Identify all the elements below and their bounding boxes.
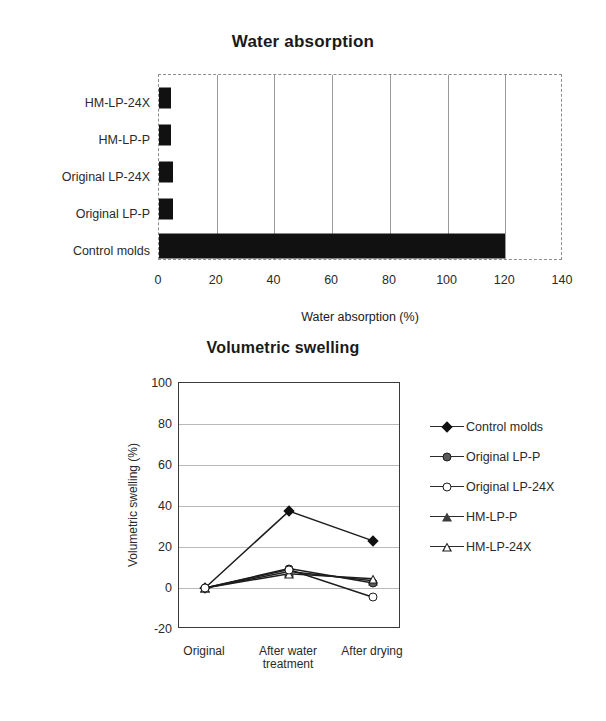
chart2-ytick--20: -20 [154,623,172,636]
chart2-ytick-60: 60 [158,459,172,472]
chart2-ytick-40: 40 [158,500,172,513]
chart1-plot-area [158,74,562,260]
legend-label: HM-LP-P [466,510,517,524]
legend-item-original-lp-24x: Original LP-24X [430,472,554,502]
chart1-bar-original-lp-24x [159,161,173,182]
chart2-legend: Control molds Original LP-P Original LP-… [430,412,554,562]
chart1-xtick-80: 80 [382,274,396,287]
legend-marker-diamond-filled-icon [430,420,464,434]
chart1-bar-hm-lp-p [159,124,171,145]
chart1-gridline-60 [332,75,333,259]
legend-label: Original LP-24X [466,480,554,494]
chart2-ytick-100: 100 [151,377,172,390]
legend-item-hm-lp-p: HM-LP-P [430,502,554,532]
chart2-y-axis-label: Volumetric swelling (%) [126,443,140,567]
chart1-x-axis-label: Water absorption (%) [301,311,419,324]
chart1-category-label-original-lp-24x: Original LP-24X [62,171,150,184]
chart1-gridline-20 [217,75,218,259]
chart1-title: Water absorption [232,33,374,50]
chart1-gridline-80 [390,75,391,259]
legend-label: Original LP-P [466,450,540,464]
legend-item-control-molds: Control molds [430,412,554,442]
chart2-ytick-20: 20 [158,541,172,554]
chart1-xtick-0: 0 [155,274,162,287]
legend-marker-triangle-filled-icon [430,510,464,524]
chart1-category-label-original-lp-p: Original LP-P [76,208,150,221]
chart1-gridline-100 [448,75,449,259]
chart1-bar-hm-lp-24x [159,87,171,108]
chart1-xtick-60: 60 [324,274,338,287]
legend-marker-circle-open-icon [430,480,464,494]
chart1-xtick-40: 40 [266,274,280,287]
chart1-category-label-control-molds: Control molds [73,245,150,258]
chart1-category-label-hm-lp-p: HM-LP-P [99,134,150,147]
legend-marker-circle-filled-icon [430,450,464,464]
chart1-xtick-100: 100 [436,274,457,287]
chart1-gridline-120 [505,75,506,259]
chart1-category-label-hm-lp-24x: HM-LP-24X [85,97,150,110]
chart2-ytick-0: 0 [165,582,172,595]
chart2-title: Volumetric swelling [207,340,360,356]
chart2-xtick-after-drying: After drying [341,645,402,658]
legend-item-original-lp-p: Original LP-P [430,442,554,472]
chart2-ytick-80: 80 [158,418,172,431]
legend-item-hm-lp-24x: HM-LP-24X [430,532,554,562]
chart1-bar-original-lp-p [159,199,173,220]
chart1-xtick-120: 120 [494,274,515,287]
chart1-bar-control-molds [159,234,505,259]
page-caption-strip [0,706,606,721]
chart2-xtick-original: Original [183,645,224,658]
chart2-xtick-after-water-line2: treatment [263,658,314,671]
chart1-xtick-140: 140 [552,274,573,287]
chart1-gridline-40 [274,75,275,259]
chart1-xtick-20: 20 [209,274,223,287]
chart2-plot-area [178,382,400,628]
legend-label: HM-LP-24X [466,540,531,554]
figure-root: Water absorption HM-LP-24X HM-LP-P Origi… [0,0,606,721]
legend-label: Control molds [466,420,543,434]
legend-marker-triangle-open-icon [430,540,464,554]
